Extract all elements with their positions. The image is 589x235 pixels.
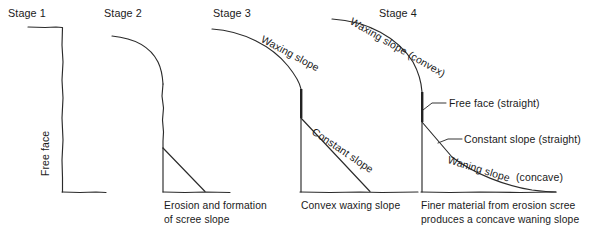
stage-3-heading: Stage 3 — [213, 7, 251, 20]
stage-1-plateau-line — [28, 27, 62, 28]
stage-2-free-face-line — [162, 84, 164, 148]
stage-3-profile — [212, 29, 418, 193]
stage-2-scree-slope-line — [163, 148, 205, 192]
stage-4-base-line — [421, 192, 556, 193]
slope-evolution-diagram: Stage 1 Stage 2 Stage 3 Stage 4 Free fac… — [0, 0, 589, 235]
stage-1-free-face-line — [62, 28, 63, 193]
constant-slope-leader-line — [438, 139, 462, 143]
stage-2-caption: Erosion and formation of scree slope — [164, 199, 267, 226]
stage-1-base-line — [62, 192, 106, 193]
stage-2-base-line — [163, 192, 230, 193]
constant-slope-straight-label: Constant slope (straight) — [464, 133, 581, 146]
stage-2-heading: Stage 2 — [104, 7, 142, 20]
free-face-leader-line — [423, 103, 446, 110]
stage-3-base-line — [300, 192, 418, 193]
stage-4-heading: Stage 4 — [379, 7, 417, 20]
stage-2-waxing-curve — [112, 36, 163, 84]
waning-slope-concave-label: (concave) — [516, 171, 563, 184]
free-face-straight-label: Free face (straight) — [449, 97, 540, 110]
stage-2-profile — [112, 36, 230, 193]
stage-4-caption: Finer material from erosion scree produc… — [421, 199, 579, 226]
stage-3-caption: Convex waxing slope — [301, 199, 400, 213]
free-face-label: Free face — [39, 131, 52, 176]
stage-1-heading: Stage 1 — [8, 7, 46, 20]
